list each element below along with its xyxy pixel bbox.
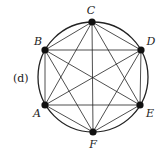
vertex-label-C: C xyxy=(87,4,96,17)
vertex-label-B: B xyxy=(33,35,42,48)
vertex-C xyxy=(88,18,95,25)
vertex-label-D: D xyxy=(146,35,156,48)
vertex-D xyxy=(137,46,144,53)
edge-DE xyxy=(140,50,141,105)
vertex-E xyxy=(136,101,143,108)
figure-tag: (d) xyxy=(13,72,29,85)
vertex-label-E: E xyxy=(145,107,154,120)
edge-DF xyxy=(93,50,141,132)
edge-BC xyxy=(45,22,92,50)
graph-edges xyxy=(45,22,141,132)
complete-graph-k6-diagram: ABCDEF (d) xyxy=(0,0,161,152)
edge-CD xyxy=(92,22,141,50)
vertex-label-F: F xyxy=(88,138,97,151)
vertex-label-A: A xyxy=(32,107,41,120)
vertex-B xyxy=(41,46,48,53)
vertex-A xyxy=(41,101,48,108)
edge-EF xyxy=(93,105,140,132)
vertex-F xyxy=(89,128,96,135)
edge-CF xyxy=(92,22,93,132)
edge-AF xyxy=(45,105,93,132)
